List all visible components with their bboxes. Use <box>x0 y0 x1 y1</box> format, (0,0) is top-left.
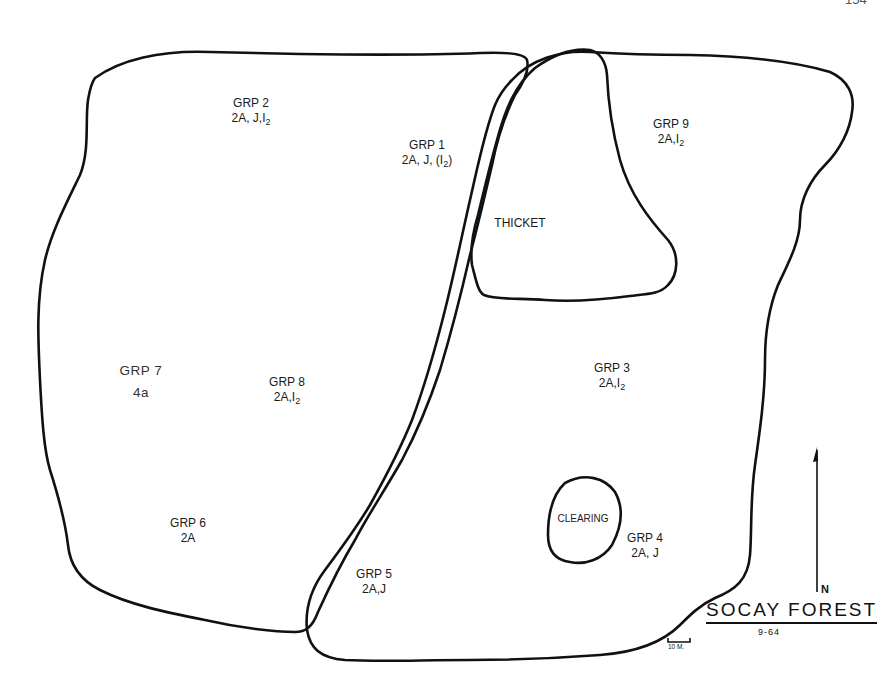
map-outlines <box>0 0 892 689</box>
page-number: 154 <box>845 0 867 7</box>
group-name: GRP 8 <box>269 375 305 390</box>
north-arrow-head-icon <box>813 447 818 462</box>
group-code: 2A,I2 <box>653 132 689 147</box>
scale-bar <box>668 638 690 642</box>
group-name: GRP 4 <box>627 531 663 546</box>
map-date: 9-64 <box>758 627 780 637</box>
group-name: GRP 9 <box>653 117 689 132</box>
group-label-grp1: GRP 1 2A, J, (I2) <box>402 138 452 168</box>
group-code: 2A,J <box>356 582 392 597</box>
forest-map: 154 GRP 2 2A, J,I2 GRP 1 2A, J, (I2) GRP… <box>0 0 892 689</box>
group-code: 2A, J,I2 <box>231 111 270 126</box>
group-label-grp9: GRP 9 2A,I2 <box>653 117 689 147</box>
thicket-label: THICKET <box>494 216 545 231</box>
group-name: GRP 2 <box>231 96 270 111</box>
group-label-grp2: GRP 2 2A, J,I2 <box>231 96 270 126</box>
group-label-grp4: GRP 4 2A, J <box>627 531 663 561</box>
group-name: GRP 7 <box>120 360 163 382</box>
north-label: N <box>821 583 829 595</box>
group-label-grp3: GRP 3 2A,I2 <box>594 361 630 391</box>
group-code: 2A, J, (I2) <box>402 153 452 168</box>
group-name: GRP 3 <box>594 361 630 376</box>
group-name: GRP 5 <box>356 567 392 582</box>
west-plot-boundary <box>38 52 527 632</box>
group-code: 2A,I2 <box>594 376 630 391</box>
group-label-grp8: GRP 8 2A,I2 <box>269 375 305 405</box>
map-title: SOCAY FOREST <box>706 599 877 624</box>
scale-label: 10 M. <box>668 643 684 650</box>
group-code: 2A <box>170 531 206 546</box>
group-code: 2A, J <box>627 546 663 561</box>
group-label-grp7: GRP 7 4a <box>120 360 163 404</box>
group-label-grp6: GRP 6 2A <box>170 516 206 546</box>
thicket-boundary <box>471 50 676 301</box>
group-code: 4a <box>120 382 163 404</box>
clearing-label: CLEARING <box>557 511 608 526</box>
group-name: GRP 6 <box>170 516 206 531</box>
group-name: GRP 1 <box>402 138 452 153</box>
group-code: 2A,I2 <box>269 390 305 405</box>
group-label-grp5: GRP 5 2A,J <box>356 567 392 597</box>
